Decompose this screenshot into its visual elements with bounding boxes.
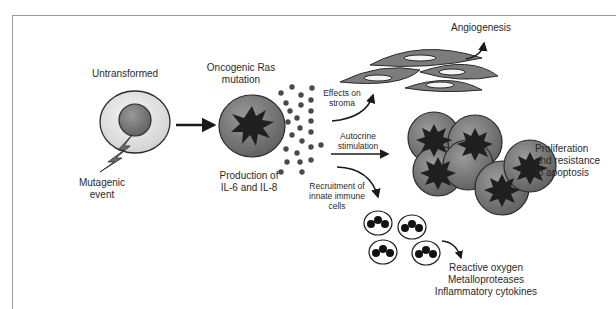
label-recruitment: Recruitment of innate immune cells [306, 181, 368, 212]
label-autocrine-stimulation: Autocrine stimulation [333, 131, 383, 151]
immune-outcome-arrow [442, 241, 461, 258]
label-effects-on-stroma: Effects on stroma [321, 88, 363, 108]
label-production: Production of IL-6 and IL-8 [218, 170, 280, 194]
label-proliferation-line1: Proliferation [535, 143, 600, 155]
label-recruitment-line2: innate immune [306, 191, 368, 201]
proliferating-cells-icon [408, 112, 556, 215]
oncogenic-cell-icon [219, 95, 285, 157]
label-recruitment-line1: Recruitment of [306, 181, 368, 191]
label-angiogenesis: Angiogenesis [451, 22, 511, 34]
label-immune-outcomes: Reactive oxygen Metalloproteases Inflamm… [434, 262, 538, 298]
label-inflammatory-cytokines: Inflammatory cytokines [434, 286, 538, 298]
label-oncogenic-line2: mutation [206, 74, 276, 86]
label-production-line1: Production of [218, 170, 280, 182]
label-autocrine-line1: Autocrine [333, 131, 383, 141]
label-mutagenic-line2: event [78, 189, 126, 201]
label-oncogenic-line1: Oncogenic Ras [206, 62, 276, 74]
label-effects-line2: stroma [321, 98, 363, 108]
label-proliferation-line2: and resistance [535, 155, 600, 167]
label-production-line2: IL-6 and IL-8 [218, 182, 280, 194]
label-recruitment-line3: cells [306, 201, 368, 211]
untransformed-cell-icon [100, 91, 170, 153]
label-effects-line1: Effects on [321, 88, 363, 98]
label-proliferation: Proliferation and resistance to apoptosi… [535, 143, 600, 179]
label-reactive-oxygen: Reactive oxygen [434, 262, 538, 274]
immune-cells-icon [364, 211, 440, 265]
label-autocrine-line2: stimulation [333, 141, 383, 151]
label-proliferation-line3: to apoptosis [535, 167, 600, 179]
label-mutagenic-line1: Mutagenic [78, 177, 126, 189]
label-mutagenic-event: Mutagenic event [78, 177, 126, 201]
label-oncogenic-ras: Oncogenic Ras mutation [206, 62, 276, 86]
label-metalloproteases: Metalloproteases [434, 274, 538, 286]
label-untransformed: Untransformed [92, 68, 158, 80]
